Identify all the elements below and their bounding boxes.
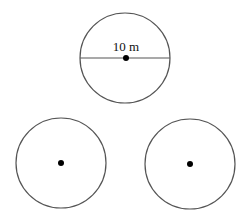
- center-dot: [187, 161, 193, 167]
- circle-bottom-left: [16, 118, 106, 208]
- diameter-label: 10 m: [113, 39, 139, 54]
- circle-bottom-right: [145, 119, 235, 209]
- circle-top: 10 m: [80, 13, 170, 103]
- circles-diagram: 10 m: [0, 0, 248, 221]
- center-dot: [58, 160, 64, 166]
- center-dot: [123, 55, 129, 61]
